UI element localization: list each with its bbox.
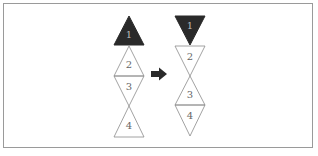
after-triangle-3-label: 3 (187, 89, 193, 100)
after-triangle-3: 3 (175, 76, 205, 105)
before-triangle-2-label: 2 (126, 59, 132, 70)
after-triangle-1-label: 1 (187, 20, 193, 31)
after-triangle-4: 4 (175, 105, 205, 136)
before-triangle-4-label: 4 (126, 120, 132, 131)
before-triangle-1-label: 1 (126, 29, 132, 40)
after-stack: 1 2 3 4 (175, 16, 205, 136)
before-triangle-2: 2 (114, 46, 144, 76)
after-triangle-2-label: 2 (187, 51, 193, 62)
triangle-diagram: 1 2 3 4 1 2 3 (0, 0, 318, 156)
after-triangle-4-label: 4 (187, 110, 193, 121)
before-triangle-3-label: 3 (126, 81, 132, 92)
before-stack: 1 2 3 4 (114, 16, 144, 137)
before-triangle-1: 1 (114, 16, 144, 45)
before-triangle-4: 4 (114, 106, 144, 137)
after-triangle-1: 1 (175, 16, 205, 45)
after-triangle-2: 2 (175, 46, 205, 76)
before-triangle-3: 3 (114, 76, 144, 106)
arrow-right-icon (151, 68, 167, 81)
